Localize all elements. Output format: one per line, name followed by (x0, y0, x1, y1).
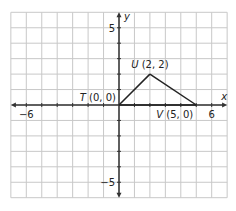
coordinate-plane: xy−665−5T (0, 0)U (2, 2)V (5, 0) (0, 0, 236, 211)
point-label-v: V (5, 0) (156, 109, 193, 120)
x-arrow-left-icon (11, 103, 16, 108)
y-axis-label: y (123, 11, 131, 22)
x-arrow-right-icon (222, 103, 227, 108)
y-arrow-down-icon (117, 193, 122, 198)
point-label-t: T (0, 0) (80, 92, 116, 103)
x-tick-label: 6 (209, 109, 215, 120)
y-tick-label: 5 (109, 23, 115, 34)
y-tick-label: −5 (100, 177, 115, 188)
x-tick-label: −6 (19, 109, 34, 120)
y-arrow-up-icon (117, 12, 122, 17)
x-axis-label: x (220, 91, 227, 102)
point-label-u: U (2, 2) (131, 59, 168, 70)
